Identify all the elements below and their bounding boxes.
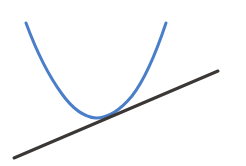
parabola-tangent-plot (0, 0, 246, 166)
plot-background (0, 0, 246, 166)
figure-canvas (0, 0, 246, 166)
